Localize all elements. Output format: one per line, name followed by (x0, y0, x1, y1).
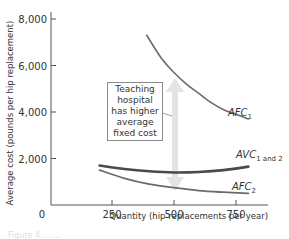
callout-line: average (109, 117, 161, 128)
callout-line: has higher (109, 106, 161, 117)
callout-line: hospital (109, 95, 161, 106)
y-ticks: 2,0004,0006,0008,000 (18, 14, 56, 165)
y-tick-label: 8,000 (18, 14, 47, 25)
y-tick-label: 2,000 (18, 154, 47, 165)
curve-label: AVC1 and 2 (235, 149, 283, 163)
y-tick-label: 4,000 (18, 107, 47, 118)
difference-arrow (166, 78, 184, 191)
curve-labels: AFC1AVC1 and 2AFC2 (227, 107, 283, 195)
callout-line: Teaching (109, 84, 161, 95)
y-tick-label: 6,000 (18, 61, 47, 72)
curve-label: AFC1 (227, 107, 252, 121)
figure-caption: Figure 4 ... ... (8, 231, 60, 239)
callout-box: Teaching hospital has higher average fix… (107, 82, 163, 141)
x-tick-label: 0 (39, 209, 45, 220)
callout-line: fixed cost (109, 128, 161, 139)
x-axis-title: Quantity (hip replacements per year) (110, 211, 268, 221)
y-axis-title: Average cost (pounds per hip replacement… (5, 21, 15, 206)
